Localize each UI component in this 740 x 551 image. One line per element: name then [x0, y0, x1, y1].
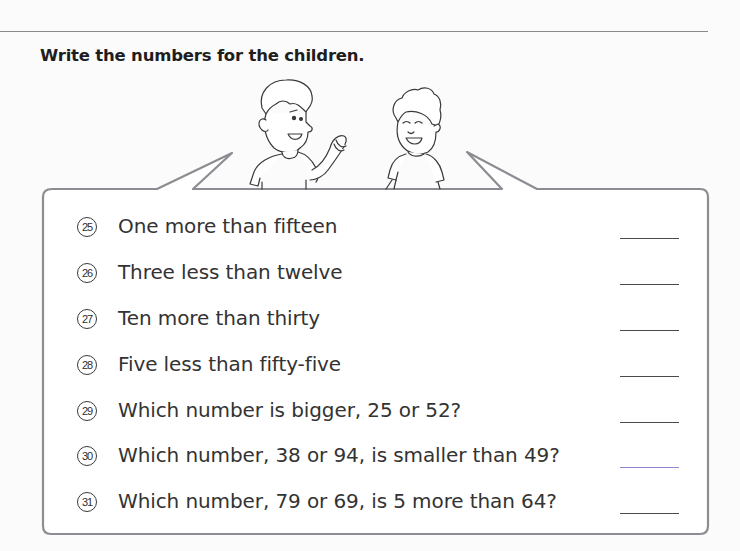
answer-blank[interactable]: [620, 376, 679, 377]
question-text: Five less than fifty-five: [118, 349, 341, 379]
answer-blank[interactable]: [620, 238, 679, 239]
answer-blank[interactable]: [620, 330, 679, 331]
question-text: Ten more than thirty: [118, 303, 320, 333]
question-row: 31 Which number, 79 or 69, is 5 more tha…: [0, 486, 740, 532]
question-row: 29 Which number is bigger, 25 or 52?: [0, 395, 740, 441]
answer-blank[interactable]: [620, 422, 679, 423]
question-number: 26: [77, 263, 97, 283]
question-number: 29: [77, 401, 97, 421]
question-row: 30 Which number, 38 or 94, is smaller th…: [0, 440, 740, 486]
question-text: One more than fifteen: [118, 211, 337, 241]
question-row: 26 Three less than twelve: [0, 257, 740, 303]
answer-blank[interactable]: [620, 467, 679, 468]
question-number: 27: [77, 309, 97, 329]
question-text: Three less than twelve: [118, 257, 343, 287]
question-number: 30: [77, 446, 97, 466]
question-text: Which number, 79 or 69, is 5 more than 6…: [118, 486, 557, 516]
question-list: 25 One more than fifteen 26 Three less t…: [0, 0, 740, 551]
question-number: 25: [77, 217, 97, 237]
question-number: 28: [77, 355, 97, 375]
answer-blank[interactable]: [620, 284, 679, 285]
question-text: Which number, 38 or 94, is smaller than …: [118, 440, 560, 470]
question-row: 28 Five less than fifty-five: [0, 349, 740, 395]
question-row: 25 One more than fifteen: [0, 211, 740, 257]
question-text: Which number is bigger, 25 or 52?: [118, 395, 461, 425]
question-row: 27 Ten more than thirty: [0, 303, 740, 349]
answer-blank[interactable]: [620, 513, 679, 514]
question-number: 31: [77, 492, 97, 512]
